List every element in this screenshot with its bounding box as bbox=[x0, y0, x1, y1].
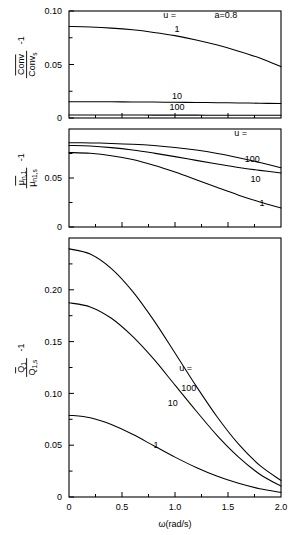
curve-label-u-100: 100 bbox=[245, 154, 260, 164]
legend-title-u: u = bbox=[163, 10, 176, 20]
y-axis-label-numerator: μn,1 bbox=[16, 170, 27, 185]
y-tick-label: 0.05 bbox=[44, 60, 62, 70]
curve-u-10 bbox=[69, 303, 281, 486]
curve-label-u-100: 100 bbox=[170, 102, 185, 112]
x-tick-label: 1.5 bbox=[222, 502, 235, 512]
y-axis-label-suffix: -1 bbox=[16, 344, 26, 352]
y-tick-label: 0 bbox=[57, 113, 62, 123]
annotation-a-value: a=0.8 bbox=[214, 10, 237, 20]
y-tick-label: 0.05 bbox=[44, 440, 62, 450]
x-tick-label: 2.0 bbox=[275, 502, 288, 512]
curve-label-u-1: 1 bbox=[259, 198, 264, 208]
y-axis-label-top: ConvConvs-1 bbox=[16, 36, 38, 78]
plot-frame-middle bbox=[69, 129, 281, 227]
y-axis-label-numerator: Q1 bbox=[16, 362, 27, 373]
legend-title-u: u = bbox=[179, 363, 192, 373]
panel-top: 00.050.10110100a=0.8u = bbox=[44, 6, 281, 123]
y-axis-label-suffix: -1 bbox=[16, 153, 26, 161]
curve-u-100 bbox=[69, 249, 281, 481]
y-tick-label: 0.10 bbox=[44, 389, 62, 399]
y-tick-label: 0.20 bbox=[44, 285, 62, 295]
y-axis-label-denominator: Q1,s bbox=[27, 359, 38, 376]
y-axis-label-denominator: μn1,s bbox=[27, 168, 38, 186]
x-tick-label: 0 bbox=[66, 502, 71, 512]
panel-bottom: 00.050.100.150.20100101u = bbox=[44, 238, 281, 502]
curve-label-u-10: 10 bbox=[172, 91, 182, 101]
plot-frame-bottom bbox=[69, 238, 281, 497]
y-tick-label: 0.05 bbox=[44, 173, 62, 183]
y-tick-label: 0.10 bbox=[44, 6, 62, 16]
three-panel-line-chart: 00.050.10110100a=0.8u =ConvConvs-100.051… bbox=[0, 0, 294, 535]
y-axis-label-numerator: Conv bbox=[16, 53, 26, 75]
y-axis-label-bottom: Q1Q1,s-1 bbox=[16, 344, 38, 377]
curve-label-u-100: 100 bbox=[181, 383, 196, 393]
x-tick-label: 1.0 bbox=[169, 502, 182, 512]
y-tick-label: 0 bbox=[57, 222, 62, 232]
y-tick-label: 0.15 bbox=[44, 337, 62, 347]
curve-label-u-10: 10 bbox=[251, 174, 261, 184]
y-axis-label-suffix: -1 bbox=[16, 36, 26, 44]
curve-label-u-1: 1 bbox=[153, 440, 158, 450]
y-axis-label-middle: μn,1μn1,s-1 bbox=[16, 153, 38, 188]
legend-title-u: u = bbox=[234, 128, 247, 138]
panel-middle: 00.05100101u = bbox=[44, 128, 281, 232]
x-axis-title: ω(rad/s) bbox=[158, 519, 191, 529]
y-tick-label: 0 bbox=[57, 492, 62, 502]
x-axis: 00.51.01.52.0ω(rad/s) bbox=[66, 502, 287, 529]
curve-label-u-1: 1 bbox=[175, 24, 180, 34]
x-tick-label: 0.5 bbox=[116, 502, 129, 512]
figure-root: 00.050.10110100a=0.8u =ConvConvs-100.051… bbox=[0, 0, 294, 535]
curve-label-u-10: 10 bbox=[168, 398, 178, 408]
y-axis-label-denominator: Convs bbox=[27, 52, 38, 77]
curve-u-1 bbox=[69, 415, 281, 492]
